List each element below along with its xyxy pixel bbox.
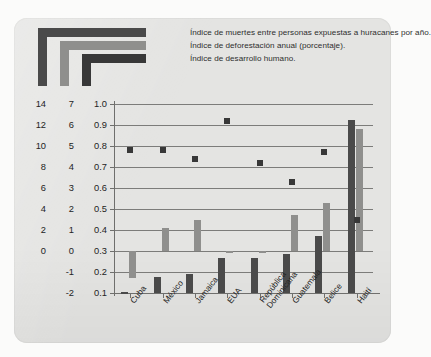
- ytick-hdi-0p6: 0.6: [81, 183, 107, 193]
- ytick-defor-0: 0: [52, 246, 74, 256]
- bar-deaths-cuba: [121, 292, 128, 294]
- marker-hdi-eua: [224, 118, 230, 124]
- bar-deforestation-cuba: [129, 251, 136, 278]
- ytick-hdi-1p0: 1.0: [81, 99, 107, 109]
- bar-deforestation-república-dominicana: [259, 251, 266, 253]
- bar-deaths-belice: [315, 236, 322, 293]
- ytick-deaths-4: 4: [24, 204, 46, 214]
- ytick-deaths-12: 12: [24, 120, 46, 130]
- marker-hdi-haití: [354, 217, 360, 223]
- ytick-defor-m2: -2: [52, 288, 74, 298]
- marker-hdi-guatemala: [289, 179, 295, 185]
- ytick-defor-5: 5: [52, 141, 74, 151]
- ytick-deaths-8: 8: [24, 162, 46, 172]
- bar-deforestation-eua: [226, 251, 233, 253]
- ytick-hdi-0p2: 0.2: [81, 267, 107, 277]
- ytick-hdi-0p3: 0.3: [81, 246, 107, 256]
- ytick-deaths-6: 6: [24, 183, 46, 193]
- ytick-deaths-10: 10: [24, 141, 46, 151]
- bar-deaths-haití: [348, 120, 355, 293]
- axis-line-hdi: [114, 101, 115, 296]
- ytick-hdi-0p1: 0.1: [81, 288, 107, 298]
- marker-hdi-república-dominicana: [257, 160, 263, 166]
- ytick-hdi-0p9: 0.9: [81, 120, 107, 130]
- bar-deforestation-jamaica: [194, 220, 201, 252]
- axis-line-x: [114, 293, 380, 294]
- marker-hdi-cuba: [127, 147, 133, 153]
- ytick-defor-1: 1: [52, 225, 74, 235]
- ytick-defor-3: 3: [52, 183, 74, 193]
- ytick-defor-6: 6: [52, 120, 74, 130]
- bar-deaths-eua: [218, 258, 225, 293]
- bar-deaths-república-dominicana: [251, 258, 258, 293]
- ytick-hdi-0p8: 0.8: [81, 141, 107, 151]
- x-label-cuba: Cuba: [128, 283, 148, 305]
- ytick-defor-2: 2: [52, 204, 74, 214]
- marker-hdi-méxico: [160, 147, 166, 153]
- ytick-deaths-14: 14: [24, 99, 46, 109]
- ytick-hdi-0p4: 0.4: [81, 225, 107, 235]
- x-label-jamaica: Jamaica: [193, 275, 220, 306]
- ytick-defor-4: 4: [52, 162, 74, 172]
- marker-hdi-jamaica: [192, 156, 198, 162]
- ytick-hdi-0p5: 0.5: [81, 204, 107, 214]
- ytick-deaths-2: 2: [24, 225, 46, 235]
- ytick-hdi-0p7: 0.7: [81, 162, 107, 172]
- bar-deforestation-guatemala: [291, 215, 298, 251]
- bar-deaths-méxico: [154, 277, 161, 293]
- ytick-deaths-0: 0: [24, 246, 46, 256]
- ytick-defor-7: 7: [52, 99, 74, 109]
- bar-deforestation-belice: [323, 203, 330, 251]
- ytick-defor-m1: -1: [52, 267, 74, 277]
- bar-deforestation-haití: [356, 129, 363, 251]
- bar-deforestation-méxico: [162, 228, 169, 251]
- x-label-eua: EUA: [225, 286, 243, 306]
- x-label-haití: Haití: [355, 286, 373, 306]
- bar-deaths-jamaica: [186, 274, 193, 293]
- marker-hdi-belice: [321, 149, 327, 155]
- x-label-méxico: México: [161, 278, 185, 305]
